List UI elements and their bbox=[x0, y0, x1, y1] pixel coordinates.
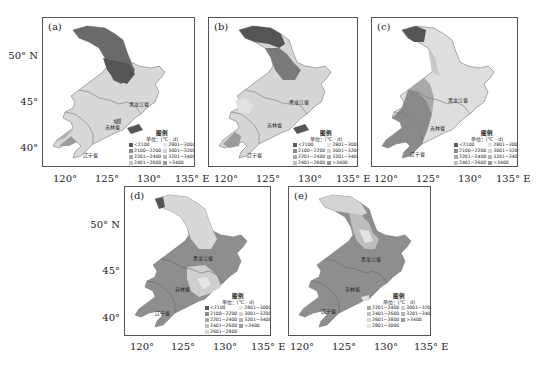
legend-swatch bbox=[367, 306, 371, 310]
x-tick-125: 125° bbox=[416, 173, 440, 184]
x-tick-120: 120° bbox=[214, 173, 238, 184]
x-tick-120: 120° bbox=[374, 173, 398, 184]
legend-e: 图例 单位：(℃ · d) 2201~24003001~32002401~260… bbox=[367, 293, 431, 329]
legend-swatch bbox=[163, 149, 167, 153]
legend-swatch bbox=[401, 318, 405, 322]
panel-label: (d) bbox=[130, 190, 144, 201]
province-label-heilongjiang: 黑龙江省 bbox=[289, 98, 309, 105]
legend-swatch bbox=[293, 143, 297, 147]
legend-swatch bbox=[293, 161, 297, 165]
province-label-jilin: 吉林省 bbox=[175, 285, 190, 292]
legend-item: 2801~3000 bbox=[367, 323, 399, 329]
map-frame-e: (e) 黑龙江省 吉林省 辽宁省 图例 单位：(℃ · d) 2201~2400… bbox=[288, 186, 431, 336]
legend-swatch bbox=[401, 306, 405, 310]
legend-swatch bbox=[163, 161, 167, 165]
legend-swatch bbox=[205, 312, 209, 316]
legend-swatch bbox=[205, 306, 209, 310]
x-tick-120: 120° bbox=[290, 341, 314, 352]
legend-swatch bbox=[129, 155, 133, 159]
legend-swatch bbox=[454, 149, 458, 153]
legend-range-label: >3400 bbox=[493, 160, 509, 166]
legend-item: 2601~2800 bbox=[129, 166, 161, 167]
map-frame-d: (d) 黑龙江省 吉林省 辽宁省 图例 单位：(℃ · d) <21002801… bbox=[124, 186, 271, 336]
legend-item: >3400 bbox=[401, 317, 431, 323]
legend-swatch bbox=[129, 149, 133, 153]
x-tick-130: 130° bbox=[137, 173, 161, 184]
legend-c: 图例 单位：(℃ · d) <21002801~30002100~2200300… bbox=[454, 130, 518, 167]
legend-swatch bbox=[401, 312, 405, 316]
legend-swatch bbox=[488, 155, 492, 159]
x-tick-130: 130° bbox=[458, 173, 482, 184]
legend-range-label: >3400 bbox=[332, 160, 348, 166]
legend-items: <21002801~30002100~22003001~32002201~240… bbox=[454, 142, 518, 167]
x-tick-135e: 135° E bbox=[336, 173, 371, 184]
x-tick-130: 130° bbox=[298, 173, 322, 184]
x-tick-135e: 135° E bbox=[496, 173, 531, 184]
legend-swatch bbox=[454, 161, 458, 165]
map-frame-a: (a) 黑龙江省 吉林省 辽宁省 图例 单位：(℃ · d) <21002801… bbox=[42, 17, 195, 167]
x-tick-120: 120° bbox=[130, 341, 154, 352]
legend-swatch bbox=[205, 324, 209, 328]
legend-range-label: >3400 bbox=[168, 160, 184, 166]
x-tick-130: 130° bbox=[374, 341, 398, 352]
y-tick-45: 45° bbox=[82, 265, 120, 276]
legend-range-label: >3400 bbox=[406, 317, 422, 323]
legend-range-label: 2601~2800 bbox=[210, 329, 237, 335]
legend-items: <21002801~30002100~22003001~32002201~240… bbox=[293, 142, 358, 167]
legend-item: 2601~2800 bbox=[205, 329, 237, 335]
x-tick-135e: 135° E bbox=[175, 173, 210, 184]
legend-item: >3400 bbox=[239, 323, 271, 329]
legend-swatch bbox=[163, 143, 167, 147]
province-label-heilongjiang: 黑龙江省 bbox=[448, 96, 468, 103]
legend-swatch bbox=[129, 143, 133, 147]
x-tick-120: 120° bbox=[53, 173, 77, 184]
province-label-liaoning: 辽宁省 bbox=[410, 150, 425, 157]
legend-swatch bbox=[454, 143, 458, 147]
panel-label: (a) bbox=[48, 21, 62, 32]
legend-swatch bbox=[488, 149, 492, 153]
legend-swatch bbox=[327, 155, 331, 159]
legend-swatch bbox=[327, 149, 331, 153]
legend-range-label: 2601~2800 bbox=[298, 166, 325, 167]
legend-range-label: >3400 bbox=[244, 323, 260, 329]
legend-items: 2201~24003001~32002401~26003201~34002601… bbox=[367, 305, 431, 329]
legend-item: 2601~2800 bbox=[293, 166, 325, 167]
legend-swatch bbox=[205, 318, 209, 322]
legend-items: <21002801~30002100~22003001~32002201~240… bbox=[129, 142, 195, 167]
panel-label: (e) bbox=[294, 190, 308, 201]
legend-item: >3400 bbox=[327, 160, 358, 166]
legend-range-label: 2601~2800 bbox=[459, 166, 486, 167]
legend-item: 2601~2800 bbox=[454, 166, 486, 167]
legend-swatch bbox=[293, 155, 297, 159]
x-tick-130: 130° bbox=[213, 341, 237, 352]
legend-swatch bbox=[205, 330, 209, 334]
province-label-jilin: 吉林省 bbox=[267, 121, 282, 128]
legend-swatch bbox=[327, 161, 331, 165]
x-tick-125: 125° bbox=[332, 341, 356, 352]
legend-swatch bbox=[129, 161, 133, 165]
legend-swatch bbox=[367, 318, 371, 322]
province-label-jilin: 吉林省 bbox=[105, 123, 120, 130]
legend-swatch bbox=[293, 149, 297, 153]
map-frame-c: (c) 黑龙江省 吉林省 辽宁省 图例 单位：(℃ · d) <21002801… bbox=[371, 17, 518, 167]
x-tick-125: 125° bbox=[256, 173, 280, 184]
panel-label: (b) bbox=[214, 21, 228, 32]
province-label-heilongjiang: 黑龙江省 bbox=[193, 254, 213, 261]
panel-label: (c) bbox=[377, 21, 390, 32]
x-tick-125: 125° bbox=[95, 173, 119, 184]
y-tick-45: 45° bbox=[0, 96, 38, 107]
y-tick-50n: 50° N bbox=[82, 219, 120, 230]
province-label-liaoning: 辽宁省 bbox=[321, 307, 336, 314]
legend-swatch bbox=[239, 306, 243, 310]
province-label-heilongjiang: 黑龙江省 bbox=[129, 100, 149, 107]
legend-range-label: 2801~3000 bbox=[372, 323, 399, 329]
legend-swatch bbox=[327, 143, 331, 147]
y-tick-40: 40° bbox=[82, 312, 120, 323]
y-tick-40: 40° bbox=[0, 142, 38, 153]
y-tick-50n: 50° N bbox=[0, 50, 38, 61]
x-tick-135e: 135° E bbox=[251, 341, 286, 352]
legend-swatch bbox=[239, 312, 243, 316]
province-label-liaoning: 辽宁省 bbox=[247, 151, 262, 158]
legend-items: <21002801~30002100~22003001~32002201~240… bbox=[205, 305, 271, 335]
province-label-jilin: 吉林省 bbox=[345, 285, 360, 292]
